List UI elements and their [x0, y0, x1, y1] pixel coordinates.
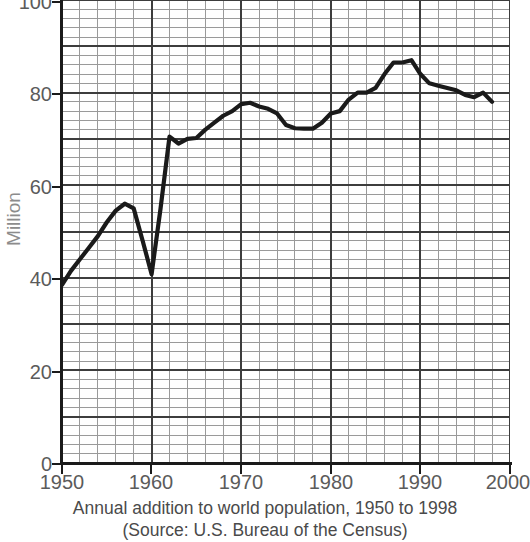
y-tick-mark: [52, 1, 63, 3]
y-tick-mark: [52, 278, 63, 280]
caption-line-1: Annual addition to world population, 195…: [0, 497, 530, 519]
y-axis-line: [60, 0, 63, 465]
x-tick-label: 1970: [206, 472, 276, 492]
y-tick-mark: [52, 93, 63, 95]
data-series-line: [62, 0, 510, 463]
x-tick-label: 1990: [385, 472, 455, 492]
x-tick-label: 2000: [473, 472, 530, 492]
y-tick-label: 80: [8, 84, 52, 104]
y-tick-label: 40: [8, 269, 52, 289]
y-tick-label: 100: [8, 0, 52, 12]
x-tick-label: 1950: [27, 472, 97, 492]
x-axis-line: [60, 462, 512, 465]
x-tick-label: 1960: [116, 472, 186, 492]
plot-area: [62, 0, 510, 463]
x-tick-label: 1980: [296, 472, 366, 492]
y-tick-mark: [52, 371, 63, 373]
y-tick-mark: [52, 186, 63, 188]
y-tick-label: 60: [8, 177, 52, 197]
y-tick-label-group: 100 80 60 40 20 0: [0, 0, 52, 539]
chart-caption: Annual addition to world population, 195…: [0, 497, 530, 542]
caption-line-2: (Source: U.S. Bureau of the Census): [0, 519, 530, 541]
y-tick-label: 20: [8, 362, 52, 382]
